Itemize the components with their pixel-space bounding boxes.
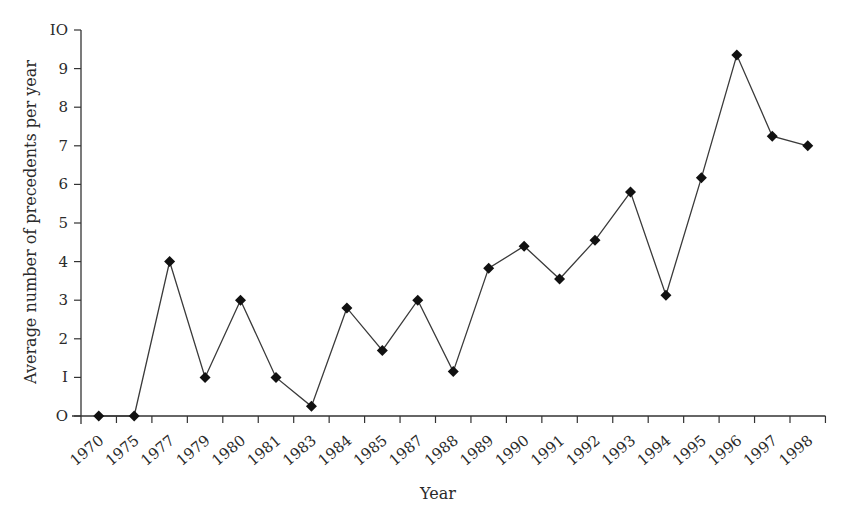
y-tick-label: 9 [58, 60, 68, 78]
series-group [93, 50, 813, 422]
x-tick-label: 1984 [315, 431, 356, 469]
data-point [696, 172, 707, 183]
series-line [99, 55, 808, 416]
x-tick-label: 1994 [634, 431, 675, 469]
x-tick-label: 1977 [137, 431, 178, 469]
x-tick-label: 1979 [173, 431, 214, 469]
data-point [448, 366, 459, 377]
y-tick-label: I [62, 368, 68, 386]
x-tick-label: 1981 [244, 431, 285, 469]
data-point [235, 295, 246, 306]
x-tick-label: 1985 [350, 431, 391, 469]
x-tick-label: 1970 [66, 431, 107, 469]
data-point [164, 256, 175, 267]
y-tick-label: 8 [58, 98, 68, 116]
data-point [200, 372, 211, 383]
y-axis-title: Average number of precedents per year [21, 60, 40, 385]
y-tick-label: 6 [58, 175, 68, 193]
y-tick-label: 3 [58, 291, 68, 309]
x-ticks: 1970197519771979198019811983198419851987… [66, 416, 825, 470]
y-tick-label: 5 [58, 214, 68, 232]
data-point [731, 50, 742, 61]
x-tick-label: 1983 [279, 431, 320, 469]
data-point [767, 131, 778, 142]
x-tick-label: 1997 [740, 431, 781, 469]
data-point [93, 411, 104, 422]
y-tick-label: 7 [58, 137, 68, 155]
x-tick-label: 1993 [598, 431, 639, 469]
x-tick-label: 1995 [669, 431, 710, 469]
line-chart: OI23456789IO 197019751977197919801981198… [0, 0, 842, 516]
x-tick-label: 1987 [386, 431, 427, 469]
y-tick-label: 2 [58, 330, 68, 348]
x-tick-label: 1975 [102, 431, 143, 469]
data-point [660, 290, 671, 301]
y-tick-label: 4 [58, 253, 68, 271]
data-point [625, 187, 636, 198]
x-tick-label: 1998 [775, 431, 816, 469]
data-point [483, 263, 494, 274]
data-point [129, 411, 140, 422]
data-point [802, 140, 813, 151]
x-tick-label: 1992 [563, 431, 604, 469]
x-tick-label: 1989 [456, 431, 497, 469]
y-tick-label: IO [50, 21, 68, 39]
data-point [412, 295, 423, 306]
x-axis-title: Year [419, 484, 456, 503]
x-tick-label: 1996 [705, 431, 746, 469]
y-ticks: OI23456789IO [50, 21, 81, 425]
x-tick-label: 1991 [527, 431, 568, 469]
x-tick-label: 1988 [421, 431, 462, 469]
x-tick-label: 1980 [208, 431, 249, 469]
y-tick-label: O [56, 407, 68, 425]
x-tick-label: 1990 [492, 431, 533, 469]
